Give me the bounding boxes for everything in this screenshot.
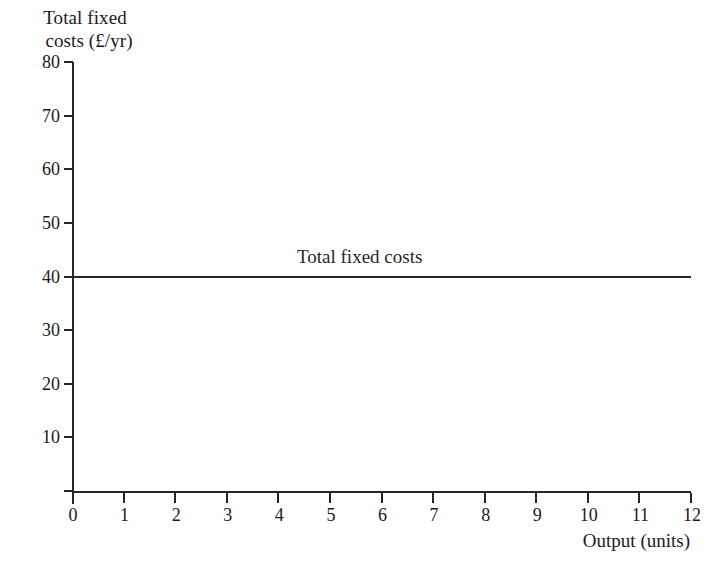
x-tick-10	[587, 493, 589, 503]
y-tick-label-70: 70	[16, 107, 60, 125]
x-axis-title: Output (units)	[400, 530, 690, 552]
y-axis-title-line-2: costs (£/yr)	[10, 29, 160, 52]
y-tick-10	[64, 436, 73, 438]
x-tick-label-12: 12	[675, 505, 709, 525]
y-tick-label-30: 30	[16, 321, 60, 339]
x-tick-6	[381, 493, 383, 503]
y-tick-label-10: 10	[16, 428, 60, 446]
y-tick-label-50: 50	[16, 214, 60, 232]
x-tick-5	[329, 493, 331, 503]
y-tick-50	[64, 222, 73, 224]
x-tick-7	[432, 493, 434, 503]
x-tick-label-9: 9	[520, 505, 554, 525]
x-tick-label-10: 10	[572, 505, 606, 525]
x-tick-label-8: 8	[469, 505, 503, 525]
y-tick-80	[64, 61, 73, 63]
y-tick-60	[64, 168, 73, 170]
y-tick-label-60: 60	[16, 160, 60, 178]
x-tick-label-6: 6	[366, 505, 400, 525]
y-tick-70	[64, 115, 73, 117]
x-tick-label-3: 3	[211, 505, 245, 525]
x-tick-label-5: 5	[314, 505, 348, 525]
x-tick-label-0: 0	[56, 505, 90, 525]
y-axis-title-line-1: Total fixed	[43, 7, 127, 28]
x-tick-11	[638, 493, 640, 503]
y-tick-30	[64, 329, 73, 331]
x-tick-4	[277, 493, 279, 503]
x-tick-label-4: 4	[262, 505, 296, 525]
x-tick-9	[535, 493, 537, 503]
fixed-cost-chart: Total fixed costs (£/yr) 102030405060708…	[0, 0, 715, 575]
x-tick-label-11: 11	[623, 505, 657, 525]
y-tick-20	[64, 383, 73, 385]
y-axis-title: Total fixed costs (£/yr)	[10, 6, 160, 52]
x-tick-2	[174, 493, 176, 503]
series-label-total-fixed-costs: Total fixed costs	[297, 247, 422, 267]
x-tick-label-7: 7	[417, 505, 451, 525]
x-tick-label-1: 1	[108, 505, 142, 525]
y-tick-0	[64, 490, 73, 492]
y-tick-label-40: 40	[16, 268, 60, 286]
y-tick-label-80: 80	[16, 53, 60, 71]
x-tick-3	[226, 493, 228, 503]
x-tick-8	[484, 493, 486, 503]
series-line-total-fixed-costs	[72, 276, 691, 278]
x-tick-1	[123, 493, 125, 503]
x-tick-12	[690, 493, 692, 503]
y-tick-label-20: 20	[16, 375, 60, 393]
x-tick-label-2: 2	[159, 505, 193, 525]
